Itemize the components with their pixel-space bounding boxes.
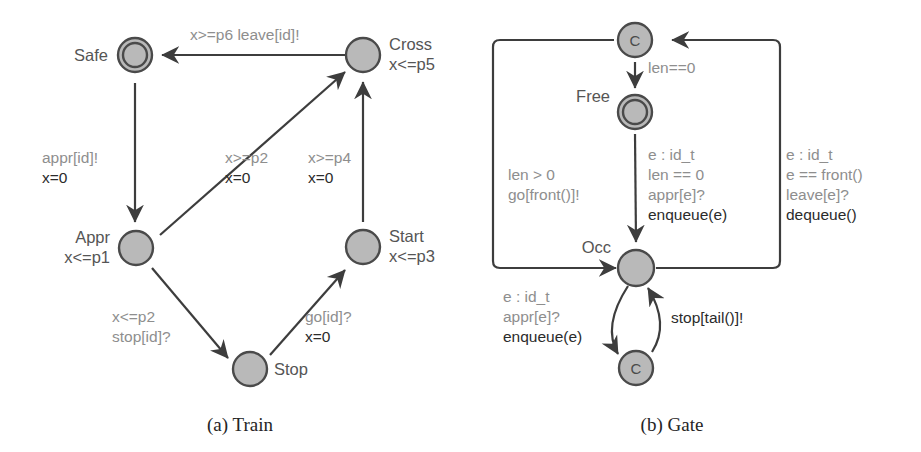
- edge-label-start-cross-guard-0: x>=p4: [308, 149, 351, 166]
- node-safe[interactable]: [118, 38, 152, 72]
- node-label-cross: Cross: [389, 35, 432, 53]
- node-cross[interactable]: [346, 38, 380, 72]
- edge-label-occ-ctop-guard-1: go[front()]!: [508, 186, 580, 203]
- node-label-occ: Occ: [582, 238, 611, 256]
- train-automaton: Safe Cross x<=p5 Appr x<=p1 Start x<=p3 …: [42, 26, 435, 436]
- edge-occ-to-cbottom: [612, 286, 628, 354]
- edge-label-occ-ctop-r-guard-0: e : id_t: [786, 146, 833, 163]
- node-invariant-start: x<=p3: [389, 247, 435, 265]
- edge-label-safe-appr-update-0: x=0: [42, 169, 68, 186]
- node-inner-label-c-top: C: [630, 32, 641, 49]
- edge-label-start-cross-update-0: x=0: [308, 169, 334, 186]
- node-gate-occ[interactable]: [618, 250, 654, 286]
- edge-cbottom-to-occ: [648, 288, 660, 352]
- node-invariant-cross: x<=p5: [389, 55, 435, 73]
- edge-occ-to-ctop-left: [493, 40, 614, 268]
- edge-label-occ-ctop-r-update-0: dequeue(): [786, 206, 857, 223]
- edge-label-occ-cbottom-guard-0: e : id_t: [503, 288, 550, 305]
- automata-figure: Safe Cross x<=p5 Appr x<=p1 Start x<=p3 …: [0, 0, 921, 452]
- edge-label-stop-start-guard-0: go[id]?: [305, 308, 352, 325]
- node-stop[interactable]: [233, 352, 267, 386]
- node-label-start: Start: [389, 227, 424, 245]
- node-label-free: Free: [576, 87, 610, 105]
- edge-label-free-occ-guard-1: len == 0: [648, 166, 704, 183]
- edge-label-stop-start-update-0: x=0: [305, 328, 331, 345]
- edge-label-appr-stop-guard-1: stop[id]?: [112, 328, 171, 345]
- node-gate-free[interactable]: [618, 95, 652, 129]
- node-gate-c-bottom[interactable]: C: [619, 351, 653, 385]
- edge-label-occ-ctop-r-guard-2: leave[e]?: [786, 186, 849, 203]
- edge-label-occ-cbottom-guard-1: appr[e]?: [503, 308, 560, 325]
- figure-root: Safe Cross x<=p5 Appr x<=p1 Start x<=p3 …: [0, 0, 921, 452]
- node-gate-c-top[interactable]: C: [618, 23, 652, 57]
- edge-label-free-occ-update-0: enqueue(e): [648, 206, 727, 223]
- edge-label-free-occ-guard-2: appr[e]?: [648, 186, 705, 203]
- edge-label-appr-cross-guard-0: x>=p2: [225, 149, 268, 166]
- edge-label-appr-stop-guard-0: x<=p2: [112, 308, 155, 325]
- edge-label-occ-ctop-r-guard-1: e == front(): [786, 166, 863, 183]
- edge-label-safe-appr-guard-0: appr[id]!: [42, 149, 98, 166]
- node-invariant-appr: x<=p1: [64, 248, 110, 266]
- edge-label-cross-safe-guard-0: x>=p6 leave[id]!: [190, 26, 299, 43]
- node-appr[interactable]: [119, 231, 153, 265]
- edge-label-cbottom-occ-guard-0: stop[tail()]!: [671, 309, 743, 326]
- edge-label-occ-ctop-guard-0: len > 0: [508, 166, 555, 183]
- edge-label-ctop-free-guard-0: len==0: [648, 59, 696, 76]
- node-label-appr: Appr: [75, 228, 110, 246]
- node-start[interactable]: [346, 230, 380, 264]
- caption-gate: (b) Gate: [641, 414, 704, 436]
- gate-automaton: C C Free Occ len==0 len > 0 go[front()]!…: [493, 23, 863, 436]
- node-label-stop: Stop: [274, 360, 308, 378]
- edge-label-occ-cbottom-update-0: enqueue(e): [503, 328, 582, 345]
- node-label-safe: Safe: [74, 46, 108, 64]
- edge-free-to-occ: [635, 134, 636, 242]
- caption-train: (a) Train: [207, 414, 273, 436]
- node-inner-label-c-bottom: C: [631, 360, 642, 377]
- edge-label-free-occ-guard-0: e : id_t: [648, 146, 695, 163]
- edge-label-appr-cross-update-0: x=0: [225, 169, 251, 186]
